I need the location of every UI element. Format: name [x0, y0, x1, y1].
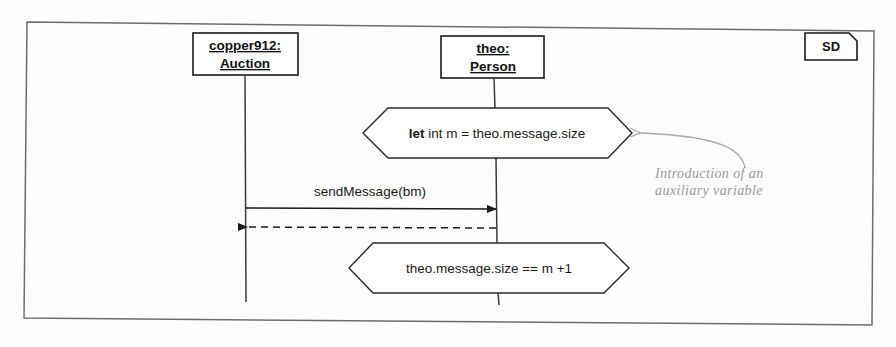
- annotation-note: Introduction of an auxiliary variable: [654, 166, 764, 198]
- lifeline-instance-name-person: theo:: [477, 41, 510, 56]
- lifeline-class-name-auction: Auction: [220, 56, 270, 71]
- constraint-expression-let: int m = theo.message.size: [428, 126, 585, 141]
- annotation-line-2: auxiliary variable: [655, 183, 763, 198]
- diagram-canvas: SD copper912: Auction theo: Person let i…: [0, 0, 896, 347]
- message-send[interactable]: sendMessage(bm): [246, 184, 496, 209]
- frame-tag-sd: SD: [805, 33, 857, 60]
- lifeline-line-person-seg1: [494, 78, 495, 109]
- constraint-label-assert: theo.message.size == m +1: [406, 261, 572, 276]
- lifeline-head-auction[interactable]: copper912: Auction: [193, 33, 298, 75]
- lifeline-line-person-seg2: [496, 158, 497, 244]
- message-return[interactable]: [247, 227, 496, 228]
- lifeline-instance-name-auction: copper912:: [209, 38, 281, 53]
- constraint-hexagon-let[interactable]: let int m = theo.message.size: [363, 108, 632, 158]
- lifeline-head-person[interactable]: theo: Person: [441, 36, 544, 78]
- lifeline-line-auction: [245, 75, 246, 302]
- sequence-diagram: SD copper912: Auction theo: Person let i…: [0, 0, 896, 347]
- lifeline-line-person-seg3: [498, 293, 499, 305]
- message-label-send: sendMessage(bm): [314, 184, 426, 199]
- lifeline-class-name-person: Person: [470, 59, 516, 74]
- constraint-hexagon-assert[interactable]: theo.message.size == m +1: [349, 243, 629, 293]
- constraint-keyword-let: let: [409, 126, 425, 141]
- annotation-line-1: Introduction of an: [654, 166, 764, 181]
- annotation-leader-line: [640, 133, 745, 168]
- constraint-label-let: let int m = theo.message.size: [409, 126, 586, 141]
- frame-tag-label: SD: [822, 39, 840, 54]
